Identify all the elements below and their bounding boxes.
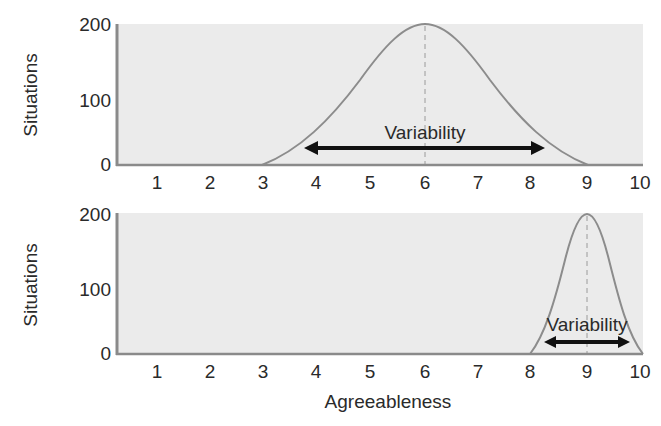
bottom-y-axis-label: Situations [20,243,41,326]
bottom-xtick-2: 2 [205,361,216,382]
bottom-xtick-8: 8 [525,361,536,382]
top-xtick-4: 4 [311,172,322,193]
top-xtick-2: 2 [205,172,216,193]
top-ytick-100: 100 [79,90,111,111]
top-plot-background [117,24,643,165]
bottom-ytick-200: 200 [79,204,111,225]
top-variability-label: Variability [385,122,466,143]
top-xtick-9: 9 [582,172,593,193]
bottom-xtick-4: 4 [311,361,322,382]
x-axis-label: Agreeableness [325,391,452,412]
top-xtick-10: 10 [629,172,650,193]
bottom-xtick-3: 3 [258,361,269,382]
bottom-xtick-10: 10 [629,361,650,382]
top-y-axis-label: Situations [20,53,41,136]
chart-canvas: Variability 200 100 0 1 2 3 4 5 6 7 8 9 … [0,0,661,426]
top-xtick-7: 7 [473,172,484,193]
top-ytick-200: 200 [79,14,111,35]
top-xtick-8: 8 [525,172,536,193]
top-xtick-1: 1 [152,172,163,193]
bottom-xtick-7: 7 [473,361,484,382]
top-ytick-0: 0 [100,154,111,175]
bottom-xtick-9: 9 [582,361,593,382]
top-xtick-5: 5 [365,172,376,193]
top-xtick-6: 6 [420,172,431,193]
bottom-xtick-6: 6 [420,361,431,382]
bottom-xtick-5: 5 [365,361,376,382]
bottom-variability-label: Variability [547,314,628,335]
bottom-ytick-100: 100 [79,279,111,300]
top-xtick-3: 3 [258,172,269,193]
top-panel: Variability 200 100 0 1 2 3 4 5 6 7 8 9 … [20,14,651,193]
bottom-panel: Variability 200 100 0 1 2 3 4 5 6 7 8 9 … [20,204,651,412]
bottom-xtick-1: 1 [152,361,163,382]
bottom-ytick-0: 0 [100,343,111,364]
